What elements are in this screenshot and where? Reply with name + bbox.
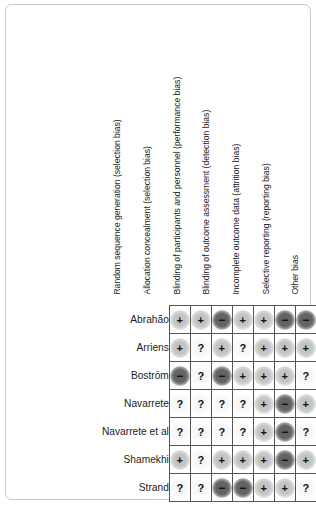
high-risk-icon: −	[170, 366, 190, 386]
low-risk-icon: +	[170, 338, 190, 358]
judgement-cell: −	[211, 306, 232, 334]
high-risk-icon: −	[212, 310, 232, 330]
judgement-cell: ?	[211, 390, 232, 418]
low-risk-icon: +	[296, 450, 316, 470]
low-risk-icon: +	[254, 366, 274, 386]
unclear-risk-icon: ?	[296, 478, 316, 498]
column-header-3: Blinding of outcome assessment (detectio…	[191, 14, 221, 297]
judgement-cell: +	[295, 390, 316, 418]
judgement-cell: ?	[190, 390, 211, 418]
unclear-risk-icon: ?	[233, 338, 253, 358]
judgement-cell: ?	[232, 418, 253, 446]
judgement-cell: −	[274, 418, 295, 446]
judgement-cell: ?	[190, 334, 211, 362]
judgement-cell: +	[295, 334, 316, 362]
unclear-risk-icon: ?	[296, 366, 316, 386]
judgement-cell: +	[253, 418, 274, 446]
high-risk-icon: −	[233, 478, 253, 498]
column-header-1: Allocation concealment (selection bias)	[132, 14, 162, 297]
low-risk-icon: +	[254, 450, 274, 470]
judgement-cell: ?	[190, 418, 211, 446]
column-header-4: Incomplete outcome data (attrition bias)	[221, 14, 251, 297]
study-label: Boström	[102, 362, 169, 390]
low-risk-icon: +	[170, 310, 190, 330]
judgement-cell: ?	[190, 474, 211, 502]
judgement-cell: −	[232, 474, 253, 502]
low-risk-icon: +	[191, 310, 211, 330]
judgement-cell: ?	[232, 334, 253, 362]
column-header-label: Random sequence generation (selection bi…	[114, 12, 123, 295]
unclear-risk-icon: ?	[233, 422, 253, 442]
low-risk-icon: +	[296, 394, 316, 414]
high-risk-icon: −	[296, 310, 316, 330]
judgement-cell: ?	[169, 418, 190, 446]
unclear-risk-icon: ?	[191, 422, 211, 442]
study-label: Navarrete	[102, 390, 169, 418]
table-row: Strand??−−++?	[102, 474, 316, 502]
study-label: Abrahão	[102, 306, 169, 334]
judgement-cell: +	[253, 474, 274, 502]
unclear-risk-icon: ?	[170, 478, 190, 498]
unclear-risk-icon: ?	[170, 394, 190, 414]
low-risk-icon: +	[275, 366, 295, 386]
judgement-cell: +	[232, 446, 253, 474]
unclear-risk-icon: ?	[170, 422, 190, 442]
judgement-cell: ?	[232, 390, 253, 418]
judgement-cell: +	[190, 306, 211, 334]
judgement-cell: ?	[295, 418, 316, 446]
risk-of-bias-figure: Random sequence generation (selection bi…	[0, 0, 316, 505]
column-header-2: Blinding of participants and personnel (…	[161, 14, 191, 297]
column-header-row: Random sequence generation (selection bi…	[102, 14, 310, 297]
high-risk-icon: −	[275, 394, 295, 414]
low-risk-icon: +	[212, 450, 232, 470]
judgement-cell: +	[169, 334, 190, 362]
low-risk-icon: +	[233, 366, 253, 386]
column-header-label: Incomplete outcome data (attrition bias)	[233, 12, 242, 295]
column-header-label: Selective reporting (reporting bias)	[262, 12, 271, 295]
judgement-cell: +	[211, 334, 232, 362]
unclear-risk-icon: ?	[191, 478, 211, 498]
study-label: Navarrete et al	[102, 418, 169, 446]
low-risk-icon: +	[170, 450, 190, 470]
study-label: Strand	[102, 474, 169, 502]
column-header-6: Other bias	[280, 14, 310, 297]
high-risk-icon: −	[275, 422, 295, 442]
low-risk-icon: +	[254, 394, 274, 414]
judgement-cell: +	[253, 362, 274, 390]
judgement-cell: +	[253, 334, 274, 362]
low-risk-icon: +	[212, 338, 232, 358]
high-risk-icon: −	[275, 310, 295, 330]
unclear-risk-icon: ?	[212, 394, 232, 414]
unclear-risk-icon: ?	[296, 422, 316, 442]
table-row: Shamekhi+?+++−+	[102, 446, 316, 474]
judgement-cell: +	[274, 474, 295, 502]
table-row: Abrahão++−++−−	[102, 306, 316, 334]
judgement-cell: +	[232, 362, 253, 390]
judgement-cell: −	[295, 306, 316, 334]
low-risk-icon: +	[254, 478, 274, 498]
judgement-cell: +	[253, 390, 274, 418]
column-header-label: Other bias	[292, 12, 301, 295]
table-row: Navarrete????+−+	[102, 390, 316, 418]
judgement-cell: ?	[169, 474, 190, 502]
unclear-risk-icon: ?	[191, 338, 211, 358]
judgement-cell: +	[295, 446, 316, 474]
judgement-cell: ?	[295, 474, 316, 502]
column-header-0: Random sequence generation (selection bi…	[102, 14, 132, 297]
low-risk-icon: +	[233, 450, 253, 470]
high-risk-icon: −	[212, 366, 232, 386]
judgement-cell: −	[211, 474, 232, 502]
table-row: Navarrete et al????+−?	[102, 418, 316, 446]
unclear-risk-icon: ?	[191, 366, 211, 386]
judgement-cell: −	[274, 446, 295, 474]
table-row: Arriens+?+?+++	[102, 334, 316, 362]
judgement-cell: +	[232, 306, 253, 334]
column-header-label: Blinding of participants and personnel (…	[173, 12, 182, 295]
high-risk-icon: −	[275, 450, 295, 470]
judgement-cell: ?	[190, 446, 211, 474]
judgement-cell: ?	[211, 418, 232, 446]
low-risk-icon: +	[254, 338, 274, 358]
column-header-5: Selective reporting (reporting bias)	[250, 14, 280, 297]
judgement-cell: ?	[295, 362, 316, 390]
judgement-cell: −	[274, 390, 295, 418]
